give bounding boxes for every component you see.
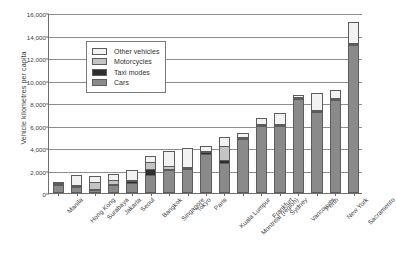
bar-stack	[182, 148, 193, 193]
bar-segment-cars	[237, 139, 248, 193]
bar-segment-other-vehicles	[182, 148, 193, 166]
x-axis-label: New York	[345, 196, 369, 220]
bar-segment-cars	[219, 163, 230, 193]
bar-segment-cars	[145, 175, 156, 193]
bar-stack	[89, 176, 100, 193]
y-tick-label: 4,000	[30, 146, 46, 153]
bar-segment-other-vehicles	[126, 170, 137, 180]
legend-label: Motorcycles	[114, 58, 152, 65]
bar-segment-cars	[53, 185, 64, 193]
legend-label: Taxi modes	[114, 69, 150, 76]
bar-stack	[163, 151, 174, 193]
bar-segment-cars	[330, 100, 341, 193]
x-axis-label: Sacramento	[366, 196, 396, 226]
bar-stack	[200, 146, 211, 193]
legend-swatch	[92, 58, 107, 65]
y-tick-label: 10,000	[27, 78, 46, 85]
y-tick-label: 16,000	[27, 11, 46, 18]
x-axis-label: Manila	[66, 196, 84, 214]
bar-segment-other-vehicles	[71, 175, 82, 184]
x-axis-label: Perth	[323, 196, 339, 212]
bar-segment-cars	[163, 170, 174, 193]
bar-segment-other-vehicles	[274, 113, 285, 125]
bar-stack	[126, 170, 137, 193]
x-axis-label: Seoul	[139, 196, 156, 213]
bar-stack	[348, 22, 359, 193]
bar-segment-cars	[126, 183, 137, 193]
bar-segment-other-vehicles	[311, 93, 322, 111]
bar-stack	[256, 118, 267, 193]
bar-stack	[237, 133, 248, 193]
bar-segment-cars	[256, 126, 267, 193]
bar-stack	[53, 182, 64, 193]
y-tick-label: 14,000	[27, 33, 46, 40]
bar-stack	[274, 113, 285, 193]
bar-segment-motorcycles	[89, 182, 100, 189]
y-tick-label: 2,000	[30, 168, 46, 175]
bar-stack	[108, 174, 119, 193]
bar-stack	[219, 137, 230, 193]
bar-stack	[71, 175, 82, 193]
bar-segment-cars	[200, 154, 211, 193]
bar-segment-other-vehicles	[330, 90, 341, 97]
bar-segment-cars	[274, 126, 285, 193]
legend-label: Cars	[114, 79, 129, 86]
legend-item: Taxi modes	[92, 67, 159, 78]
y-tick-label: 12,000	[27, 56, 46, 63]
y-tick-label: 0	[43, 191, 47, 198]
bar-segment-cars	[311, 112, 322, 193]
bar-segment-other-vehicles	[163, 151, 174, 166]
legend-item: Cars	[92, 78, 159, 89]
bar-stack	[145, 156, 156, 193]
legend-swatch	[92, 48, 107, 55]
chart-legend: Other vehiclesMotorcyclesTaxi modesCars	[86, 41, 166, 93]
x-axis-labels: ManilaHong KongSurabayaJakartaSeoulBangk…	[48, 196, 362, 255]
bar-segment-cars	[108, 185, 119, 193]
bar-stack	[330, 90, 341, 193]
bar-segment-cars	[348, 45, 359, 193]
legend-swatch	[92, 69, 107, 76]
legend-label: Other vehicles	[114, 48, 159, 55]
x-axis-label: Paris	[212, 196, 227, 211]
y-tick-label: 6,000	[30, 123, 46, 130]
bar-segment-cars	[182, 169, 193, 193]
bar-stack	[311, 93, 322, 193]
bar-segment-motorcycles	[145, 162, 156, 169]
bar-segment-motorcycles	[219, 146, 230, 160]
bar-stack	[293, 95, 304, 193]
bar-segment-other-vehicles	[348, 22, 359, 43]
legend-item: Other vehicles	[92, 46, 159, 57]
bar-segment-other-vehicles	[219, 137, 230, 146]
y-axis-title: Vehicle kilometres per capita	[16, 0, 32, 196]
y-tick-label: 8,000	[30, 101, 46, 108]
legend-item: Motorcycles	[92, 57, 159, 68]
legend-swatch	[92, 79, 107, 86]
bar-segment-cars	[293, 99, 304, 193]
